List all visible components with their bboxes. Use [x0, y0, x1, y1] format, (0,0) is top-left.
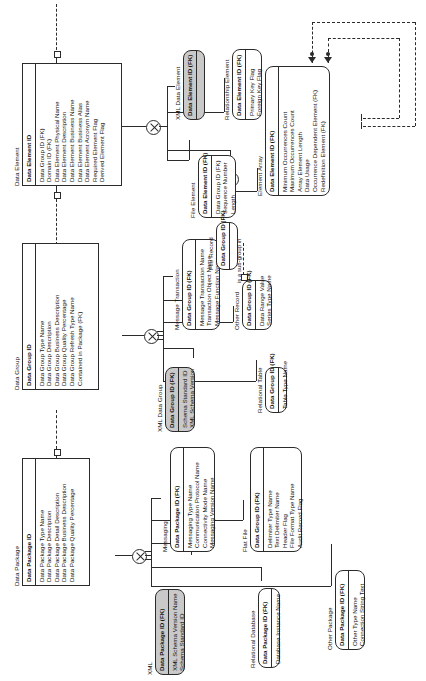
attribute-section: Other Type Name Connection String Text [349, 571, 368, 649]
entity-title: Relational Table [256, 367, 263, 413]
entity-element-array[interactable]: Element Array Data Element ID (FK) Minim… [265, 66, 330, 196]
connector-redefinition-element [328, 38, 399, 39]
attribute-section: Data Group ID (FK) Domain ID (FK) Data E… [36, 64, 108, 185]
entity-title: Messaging [161, 521, 168, 552]
relationship-marker-contained-in-package [54, 449, 61, 456]
primary-key-section: Data Element ID [23, 64, 36, 185]
primary-key-section: Data Element ID (FK) [199, 156, 212, 217]
entity-data-element[interactable]: Data Element Data Element ID Data Group … [22, 63, 122, 186]
primary-key-section: Data Group ID [23, 244, 36, 389]
attribute-section: Data Group Type Name Data Group Descript… [36, 244, 86, 389]
attribute-section: Data Range Value Series Type Name [256, 281, 275, 329]
attribute-section: Minimum Occurrences Count Maximum Occurr… [279, 67, 329, 195]
entity-data-package[interactable]: Data Package Data Package ID Data Packag… [22, 458, 90, 586]
attribute-section: Delimiter Type Name Text Delimiter Name … [264, 448, 306, 551]
attribute-section [230, 223, 234, 269]
primary-key-section: Data Package ID (FK) [259, 589, 272, 667]
entity-title: Relationship Element [223, 60, 230, 120]
primary-key-section: Data Group ID (FK) [183, 240, 196, 329]
primary-key-section: Data Group ID (FK) [166, 368, 179, 431]
attribute-section: Database Instance Name [272, 589, 284, 667]
primary-key-section: Data Package ID (FK) [171, 448, 184, 551]
connector-sub-group-in [243, 243, 244, 275]
entity-title: Flat File [241, 529, 248, 552]
entity-title: Element Array [256, 156, 263, 196]
entity-data-group[interactable]: Data Group Data Group ID Data Group Type… [22, 243, 99, 390]
primary-key-section: Data Element ID (FK) [184, 51, 197, 119]
entity-relationship-element[interactable]: Relationship Element Data Element ID (FK… [232, 49, 262, 120]
entity-title: Message Transaction [173, 269, 180, 330]
connector-occurrence-dependent [312, 22, 415, 23]
entity-messaging[interactable]: Messaging Data Package ID (FK) Messaging… [170, 447, 215, 552]
primary-key-section: Data Package ID (FK) [336, 571, 349, 649]
attribute-section: XML Schema Version Name Schema Standard … [169, 590, 188, 674]
primary-key-section: Data Package ID (FK) [156, 590, 169, 674]
relationship-marker-datagroup-dataelement [54, 192, 61, 199]
subtype-symbol-data-element [146, 120, 161, 135]
entity-title: Other Package [326, 607, 333, 650]
entity-message-transaction[interactable]: Message Transaction Data Group ID (FK) M… [182, 239, 220, 330]
entity-other-package[interactable]: Other Package Data Package ID (FK) Other… [335, 570, 365, 650]
primary-key-section: Data Group ID (FK) [266, 368, 279, 412]
entity-xml-data-group[interactable]: XML Data Group Data Group ID (FK) Schema… [165, 367, 195, 432]
entity-title: Data Package [13, 546, 20, 586]
connector-data-element-domain [56, 4, 57, 50]
entity-title: XML Data Element [174, 67, 181, 120]
entity-title: Relational Database [249, 610, 256, 668]
entity-xml[interactable]: XML Data Package ID (FK) XML Schema Vers… [155, 589, 185, 675]
entity-file-record[interactable]: File Record Data Group ID (FK) [216, 222, 238, 270]
relationship-marker-domain [54, 51, 61, 58]
attribute-section: Messaging Type Name Communication Protoc… [184, 448, 218, 551]
entity-xml-data-element[interactable]: XML Data Element Data Element ID (FK) [183, 50, 205, 120]
er-diagram-canvas: is a sub-group in Data Element Data Elem… [0, 0, 426, 681]
attribute-section: Data Group ID (FK) Sequence Number Lengt… [212, 156, 239, 217]
entity-title: XML Data Group [156, 384, 163, 432]
entity-title: Data Group [13, 357, 20, 390]
attribute-section [197, 51, 201, 119]
connector-datagroup-dataelement [56, 199, 57, 245]
primary-key-section: Data Element ID (FK) [266, 67, 279, 195]
entity-title: File Record [207, 237, 214, 270]
attribute-section: Primary Key Flag Foreign Key Flag [246, 50, 265, 119]
entity-relational-table[interactable]: Relational Table Data Group ID (FK) Tabl… [265, 367, 287, 413]
entity-relational-database[interactable]: Relational Database Data Package ID (FK)… [258, 588, 280, 668]
primary-key-section: Data Group ID (FK) [243, 281, 256, 329]
attribute-section: Table Type Name [279, 368, 291, 412]
entity-other-record[interactable]: Other Record Data Group ID (FK) Data Ran… [242, 280, 272, 330]
attribute-section: Schema Standard ID XML Schema Version [179, 368, 198, 431]
entity-title: File Element [189, 182, 196, 218]
primary-key-section: Data Group ID (FK) [217, 223, 230, 269]
entity-flat-file[interactable]: Flat File Data Group ID (FK) Delimiter T… [250, 447, 302, 552]
attribute-section: Data Package Type Name Data Package Desc… [36, 459, 78, 585]
connector-contained-in-package [56, 410, 57, 449]
entity-title: Other Record [233, 292, 240, 330]
entity-title: XML [146, 662, 153, 675]
entity-title: Data Element [13, 147, 20, 186]
entity-file-element[interactable]: File Element Data Element ID (FK) Data G… [198, 155, 236, 218]
primary-key-section: Data Group ID (FK) [251, 448, 264, 551]
arrowhead-redefinition-element [324, 57, 332, 63]
primary-key-section: Data Package ID [23, 459, 36, 585]
arrowhead-occurrence-dependent [308, 57, 316, 63]
primary-key-section: Data Element ID (FK) [233, 50, 246, 119]
